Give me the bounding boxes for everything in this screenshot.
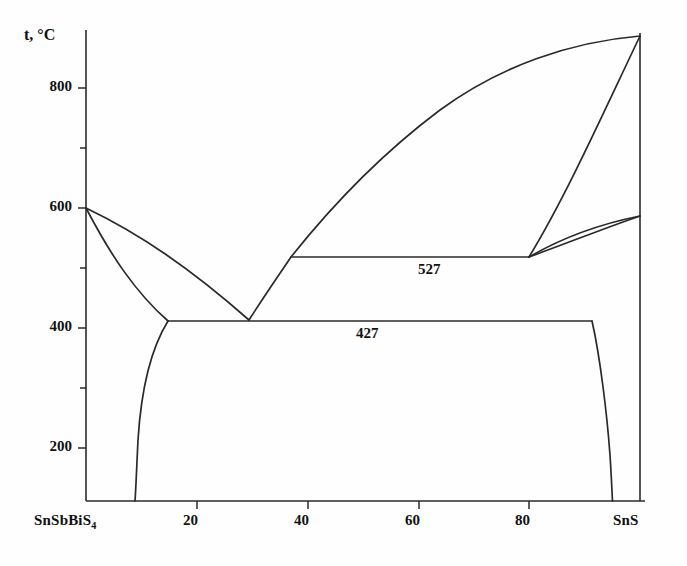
isotherm-527-label: 527: [418, 261, 441, 278]
x-axis-left-endpoint-label: SnSbBiS4: [34, 512, 97, 531]
curve-snS-liquidus: [529, 36, 640, 257]
x-axis-ticks: [197, 501, 529, 509]
phase-diagram-figure: t, °C 800 600 400 200 20 40 60 80 SnSbBi…: [0, 0, 687, 566]
isotherm-427-label: 427: [356, 325, 379, 342]
x-axis-right-endpoint-label: SnS: [613, 512, 639, 529]
curve-central-liquidus: [249, 36, 640, 320]
curve-left-liquidus: [86, 208, 249, 320]
x-tick-label-40: 40: [294, 512, 309, 529]
x-tick-label-80: 80: [515, 512, 530, 529]
curve-left-solidus: [86, 208, 168, 321]
phase-boundary-curves: [86, 36, 640, 501]
y-axis-ticks: [78, 88, 86, 448]
curve-left-solvus: [135, 321, 168, 501]
y-tick-label-400: 400: [14, 318, 72, 335]
y-axis-title: t, °C: [24, 26, 55, 44]
curve-snS-solvus-upper: [529, 216, 640, 257]
x-tick-label-20: 20: [183, 512, 198, 529]
x-tick-label-60: 60: [405, 512, 420, 529]
y-tick-label-600: 600: [14, 198, 72, 215]
axis-frame: [86, 30, 645, 501]
y-tick-label-800: 800: [14, 78, 72, 95]
curve-right-solvus: [592, 321, 613, 501]
y-tick-label-200: 200: [14, 438, 72, 455]
phase-diagram-plot: [0, 0, 687, 566]
